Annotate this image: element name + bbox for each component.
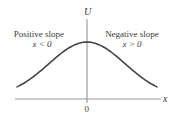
- region-right-title: Negative slope: [105, 29, 159, 39]
- x-axis-label: x: [162, 93, 168, 104]
- region-left-condition: x < 0: [31, 39, 52, 49]
- potential-energy-diagram: U x 0 Positive slope x < 0 Negative slop…: [0, 0, 178, 117]
- origin-label: 0: [85, 104, 90, 114]
- u-axis-label: U: [84, 6, 92, 17]
- region-right-condition: x > 0: [121, 39, 142, 49]
- region-left-title: Positive slope: [14, 29, 64, 39]
